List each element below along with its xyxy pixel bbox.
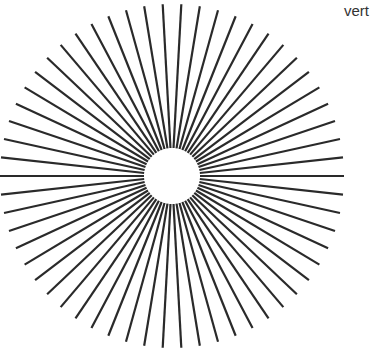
spoke-line — [35, 193, 150, 280]
spoke-line — [182, 202, 235, 336]
spoke-line — [194, 72, 309, 159]
spoke-line — [35, 72, 150, 159]
spoke-line — [75, 34, 156, 153]
radial-spoke-figure — [0, 0, 372, 357]
spoke-line — [188, 199, 269, 318]
spoke-line — [194, 193, 309, 280]
spoke-line — [188, 34, 269, 153]
spoke-line — [75, 199, 156, 318]
spoke-line — [182, 16, 235, 150]
spoke-line — [108, 202, 161, 336]
caption-text: vert — [344, 2, 369, 19]
spoke-line — [108, 16, 161, 150]
